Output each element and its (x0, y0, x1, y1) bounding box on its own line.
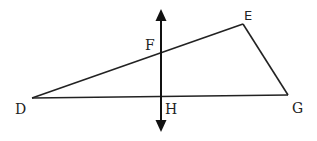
segment-EG (243, 24, 288, 95)
label-E: E (244, 8, 252, 23)
label-D: D (15, 101, 26, 117)
segment-DE (32, 24, 243, 98)
label-G: G (292, 100, 303, 116)
label-H: H (165, 101, 177, 117)
arrow-down-icon (156, 120, 167, 132)
arrow-up-icon (156, 9, 167, 21)
label-F: F (145, 37, 155, 53)
diagram-svg: D E F G H (0, 0, 317, 141)
geometry-diagram: D E F G H (0, 0, 317, 141)
